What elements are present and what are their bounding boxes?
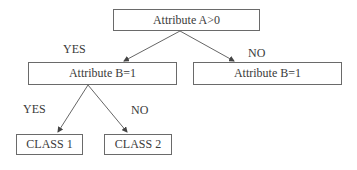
class1-node: CLASS 1 xyxy=(16,134,83,155)
class2-node: CLASS 2 xyxy=(104,134,172,155)
class1-node-label: CLASS 1 xyxy=(26,137,72,152)
right-node-label: Attribute B=1 xyxy=(234,66,301,81)
edge-left-class2 xyxy=(88,85,127,132)
edge-label-root-yes: YES xyxy=(63,42,86,57)
left-node-label: Attribute B=1 xyxy=(69,66,136,81)
root-node: Attribute A>0 xyxy=(113,9,260,31)
left-node: Attribute B=1 xyxy=(28,62,177,85)
edge-label-root-no: NO xyxy=(248,46,265,61)
edge-label-left-yes: YES xyxy=(23,102,46,117)
root-node-label: Attribute A>0 xyxy=(153,13,220,28)
edge-root-left xyxy=(124,31,180,61)
edge-left-class1 xyxy=(58,85,88,132)
right-node: Attribute B=1 xyxy=(193,62,342,85)
class2-node-label: CLASS 2 xyxy=(115,137,161,152)
edge-label-left-no: NO xyxy=(131,103,148,118)
edge-root-right xyxy=(180,31,234,61)
